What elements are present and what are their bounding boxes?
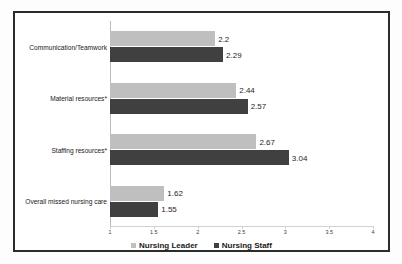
bar-nursing-leader xyxy=(110,134,256,149)
category-label: Material resources* xyxy=(50,95,107,102)
bar-nursing-staff xyxy=(110,150,289,165)
bar-nursing-staff xyxy=(110,47,223,62)
bar-row: 2.67 xyxy=(110,134,373,149)
legend-label: Nursing Leader xyxy=(139,241,198,250)
bar-group: 2.442.57 xyxy=(110,83,373,114)
legend-item[interactable]: Nursing Leader xyxy=(131,241,198,250)
x-tick-label: 1 xyxy=(109,229,112,235)
bar-row: 2.44 xyxy=(110,83,373,98)
bar-row: 1.55 xyxy=(110,202,373,217)
category-label: Overall missed nursing care xyxy=(25,198,107,205)
bar-nursing-staff xyxy=(110,99,248,114)
chart-frame: Communication/TeamworkMaterial resources… xyxy=(13,11,390,252)
legend-swatch-icon xyxy=(214,243,219,248)
category-axis-labels: Communication/TeamworkMaterial resources… xyxy=(15,21,107,227)
x-tick-label: 1.5 xyxy=(150,229,158,235)
bar-value-label: 2.44 xyxy=(236,86,255,95)
bar-group: 2.673.04 xyxy=(110,134,373,165)
bar-value-label: 2.57 xyxy=(248,102,267,111)
x-axis-ticks: 11.522.533.54 xyxy=(110,229,373,241)
x-tick-label: 2 xyxy=(196,229,199,235)
bar-row: 2.2 xyxy=(110,31,373,46)
legend-swatch-icon xyxy=(131,243,136,248)
bar-group: 1.621.55 xyxy=(110,186,373,217)
bar-row: 1.62 xyxy=(110,186,373,201)
bar-value-label: 1.55 xyxy=(158,205,177,214)
bar-value-label: 2.2 xyxy=(215,34,229,43)
bar-nursing-leader xyxy=(110,186,164,201)
category-label: Staffing resources* xyxy=(51,146,107,153)
chart-legend: Nursing LeaderNursing Staff xyxy=(15,241,388,250)
legend-label: Nursing Staff xyxy=(222,241,272,250)
bar-value-label: 2.67 xyxy=(256,137,275,146)
bar-nursing-leader xyxy=(110,83,236,98)
bar-value-label: 3.04 xyxy=(289,153,308,162)
x-tick-label: 4 xyxy=(372,229,375,235)
plot-area: 2.22.292.442.572.673.041.621.55 xyxy=(110,21,373,227)
bar-row: 2.57 xyxy=(110,99,373,114)
bar-row: 2.29 xyxy=(110,47,373,62)
legend-item[interactable]: Nursing Staff xyxy=(214,241,272,250)
bar-value-label: 2.29 xyxy=(223,50,242,59)
chart-screenshot: Communication/TeamworkMaterial resources… xyxy=(0,0,402,264)
bar-nursing-staff xyxy=(110,202,158,217)
bar-value-label: 1.62 xyxy=(164,189,183,198)
x-tick-label: 3 xyxy=(284,229,287,235)
x-tick-label: 3.5 xyxy=(325,229,333,235)
x-tick-label: 2.5 xyxy=(238,229,246,235)
bar-row: 3.04 xyxy=(110,150,373,165)
bar-group: 2.22.29 xyxy=(110,31,373,62)
category-label: Communication/Teamwork xyxy=(29,43,107,50)
bar-nursing-leader xyxy=(110,31,215,46)
